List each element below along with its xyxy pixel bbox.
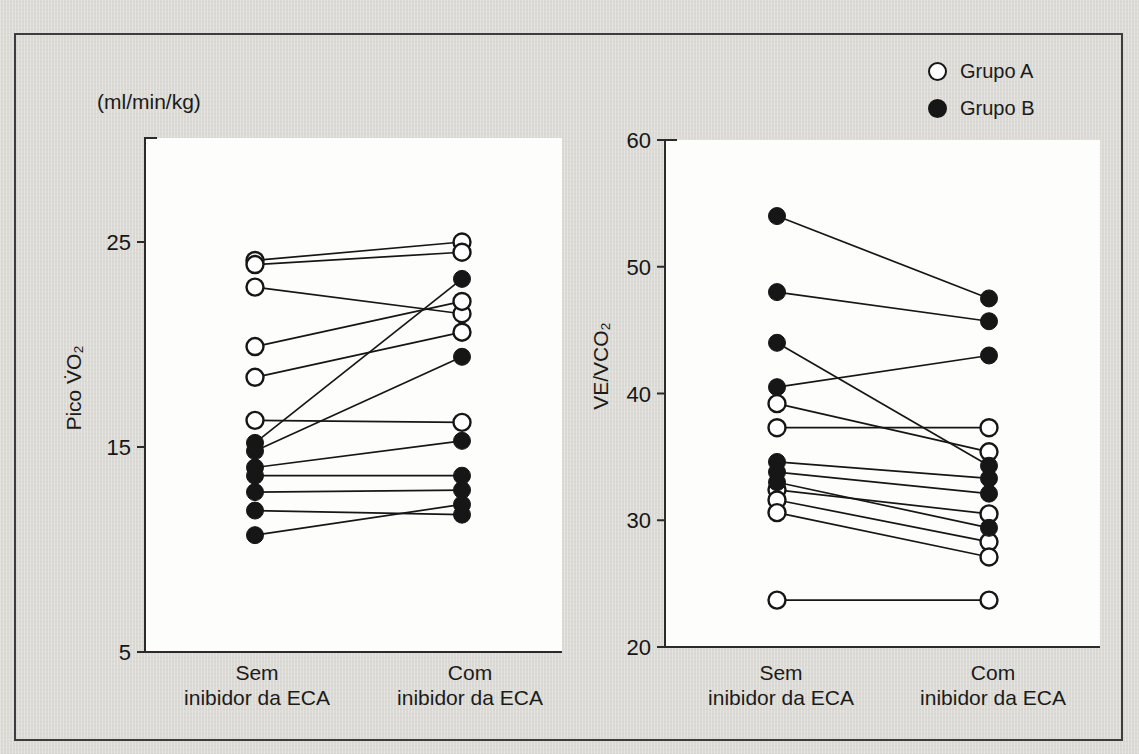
- legend: Grupo A Grupo B: [928, 60, 1034, 134]
- data-point-filled: [247, 484, 264, 501]
- data-point-open: [769, 419, 786, 436]
- data-point-filled: [454, 348, 471, 365]
- data-point-open: [981, 549, 998, 566]
- tick-label: 30: [627, 508, 651, 533]
- data-point-filled: [247, 502, 264, 519]
- xaxis-label-right-sem: Sem inibidor da ECA: [708, 660, 854, 710]
- data-point-filled: [454, 432, 471, 449]
- data-point-filled: [454, 270, 471, 287]
- data-point-open: [981, 419, 998, 436]
- tick-label: 5: [119, 640, 131, 665]
- data-point-filled: [769, 208, 786, 225]
- legend-label: Grupo A: [960, 60, 1033, 83]
- xaxis-label-right-com: Com inibidor da ECA: [920, 660, 1066, 710]
- xaxis-label-left-sem: Sem inibidor da ECA: [184, 660, 330, 710]
- y-axis-title-pico-vo2: Pico V̇O₂: [62, 345, 86, 430]
- xaxis-label-line1: Com: [920, 660, 1066, 685]
- data-point-open: [769, 592, 786, 609]
- data-point-filled: [981, 313, 998, 330]
- panel-pico-vo2: 51525: [107, 138, 562, 665]
- data-point-open: [454, 324, 471, 341]
- xaxis-label-line2: inibidor da ECA: [708, 685, 854, 710]
- panel-ve-vco2: 2030405060: [627, 128, 1100, 660]
- data-point-filled: [454, 496, 471, 513]
- xaxis-label-line1: Sem: [708, 660, 854, 685]
- y-axis-title-ve-vco2: VE/VCO₂: [589, 322, 613, 410]
- plot-area: [145, 138, 562, 652]
- data-point-open: [247, 412, 264, 429]
- data-point-open: [247, 256, 264, 273]
- data-point-open: [454, 414, 471, 431]
- data-point-open: [769, 504, 786, 521]
- data-point-filled: [981, 519, 998, 536]
- data-point-filled: [247, 467, 264, 484]
- data-point-filled: [769, 474, 786, 491]
- legend-label: Grupo B: [960, 97, 1034, 120]
- data-point-open: [981, 592, 998, 609]
- data-point-open: [454, 293, 471, 310]
- data-point-filled: [247, 443, 264, 460]
- data-point-filled: [769, 334, 786, 351]
- plot-area: [665, 140, 1100, 647]
- data-point-filled: [981, 485, 998, 502]
- tick-label: 25: [107, 230, 131, 255]
- xaxis-label-line2: inibidor da ECA: [920, 685, 1066, 710]
- data-point-filled: [981, 347, 998, 364]
- tick-label: 60: [627, 128, 651, 153]
- xaxis-label-line1: Com: [397, 660, 543, 685]
- tick-label: 40: [627, 382, 651, 407]
- unit-label: (ml/min/kg): [97, 90, 201, 114]
- open-circle-icon: [928, 62, 947, 81]
- data-point-filled: [981, 470, 998, 487]
- figure: 515252030405060 (ml/min/kg) Pico V̇O₂ VE…: [0, 0, 1139, 754]
- tick-label: 20: [627, 635, 651, 660]
- xaxis-label-line2: inibidor da ECA: [397, 685, 543, 710]
- data-point-open: [247, 279, 264, 296]
- data-point-open: [454, 244, 471, 261]
- data-point-open: [247, 369, 264, 386]
- tick-label: 15: [107, 435, 131, 460]
- tick-label: 50: [627, 255, 651, 280]
- data-point-open: [769, 395, 786, 412]
- xaxis-label-line2: inibidor da ECA: [184, 685, 330, 710]
- xaxis-label-left-com: Com inibidor da ECA: [397, 660, 543, 710]
- data-point-filled: [981, 290, 998, 307]
- legend-item: Grupo B: [928, 97, 1034, 120]
- data-point-filled: [769, 379, 786, 396]
- xaxis-label-line1: Sem: [184, 660, 330, 685]
- data-point-filled: [247, 527, 264, 544]
- filled-circle-icon: [928, 99, 947, 118]
- data-point-filled: [769, 284, 786, 301]
- legend-item: Grupo A: [928, 60, 1034, 83]
- data-point-open: [247, 338, 264, 355]
